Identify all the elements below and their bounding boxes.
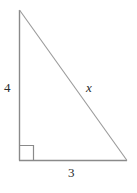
- horizontal-leg-label: 3: [68, 166, 75, 179]
- hypotenuse-label: x: [86, 81, 92, 94]
- vertical-leg-label: 4: [4, 81, 11, 94]
- right-triangle-figure: 4 x 3: [0, 0, 137, 193]
- hypotenuse-line: [20, 10, 128, 161]
- right-angle-marker-icon: [20, 146, 34, 161]
